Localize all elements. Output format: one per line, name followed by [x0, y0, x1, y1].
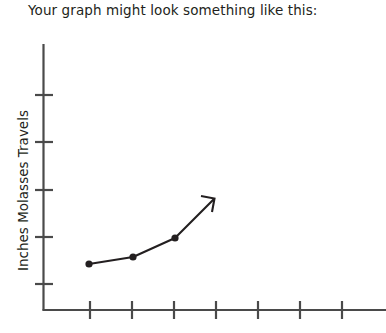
- series-polyline: [89, 199, 214, 264]
- data-point: [171, 234, 178, 241]
- data-point: [85, 260, 92, 267]
- chart-axes: [43, 44, 386, 311]
- molasses-line-chart: [0, 0, 386, 333]
- data-series-line: [89, 196, 215, 264]
- data-point: [129, 253, 136, 260]
